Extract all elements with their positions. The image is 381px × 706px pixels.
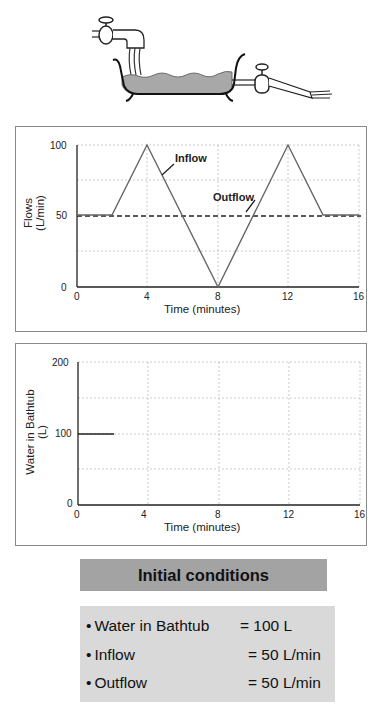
initial-conditions-header: Initial conditions <box>80 559 327 591</box>
condition-label: Outflow <box>94 674 147 691</box>
bullet-icon: • <box>86 646 91 664</box>
x-tick-0: 0 <box>74 509 80 520</box>
initial-conditions-box: •Water in Bathtub = 100 L •Inflow = 50 L… <box>80 606 335 702</box>
condition-inflow: •Inflow = 50 L/min <box>80 646 335 668</box>
x-tick-4: 4 <box>141 509 147 520</box>
condition-water: •Water in Bathtub = 100 L <box>80 617 335 639</box>
condition-value: = 50 L/min <box>248 674 321 692</box>
condition-label: Water in Bathtub <box>94 617 209 634</box>
x-tick-12: 12 <box>283 509 294 520</box>
y-tick-100: 100 <box>55 428 72 439</box>
y-axis-title: Water in Bathtub (L) <box>24 372 48 492</box>
y-tick-0: 0 <box>67 498 73 509</box>
condition-value: = 100 L <box>240 617 292 635</box>
x-tick-16: 16 <box>354 509 365 520</box>
water-plot <box>0 0 381 560</box>
condition-label: Inflow <box>94 646 135 663</box>
condition-value: = 50 L/min <box>248 646 321 664</box>
x-axis-title: Time (minutes) <box>164 521 240 533</box>
y-tick-200: 200 <box>52 357 69 368</box>
bullet-icon: • <box>86 674 91 692</box>
bullet-icon: • <box>86 617 91 635</box>
x-tick-8: 8 <box>215 509 221 520</box>
condition-outflow: •Outflow = 50 L/min <box>80 674 335 696</box>
